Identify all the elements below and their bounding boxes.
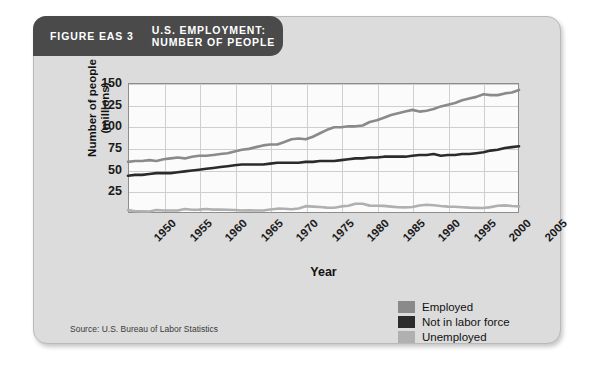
- y-axis-tick-labels: 150125100755025: [88, 83, 122, 213]
- y-axis-tick: 125: [101, 98, 122, 112]
- chart-legend: EmployedNot in labor forceUnemployed: [398, 301, 558, 346]
- figure-header-tab: FIGURE EAS 3 U.S. EMPLOYMENT: NUMBER OF …: [33, 16, 283, 56]
- x-axis-tick: 1990: [436, 217, 463, 244]
- legend-item: Unemployed: [398, 331, 558, 343]
- x-axis-tick: 1955: [187, 217, 214, 244]
- y-axis-tick: 150: [101, 76, 122, 90]
- x-axis-tick: 1965: [258, 217, 285, 244]
- x-axis-title: Year: [128, 265, 519, 279]
- legend-item: Employed: [398, 301, 558, 313]
- y-axis-tick: 50: [108, 163, 122, 177]
- x-axis-tick: 1970: [294, 217, 321, 244]
- legend-item: Not in labor force: [398, 316, 558, 328]
- series-line: [128, 146, 519, 175]
- series-line: [128, 90, 519, 162]
- x-axis-tick: 1980: [365, 217, 392, 244]
- x-axis-tick: 2005: [542, 217, 569, 244]
- x-axis-tick: 1950: [151, 217, 178, 244]
- legend-label: Employed: [422, 301, 473, 313]
- x-axis-tick: 1995: [471, 217, 498, 244]
- legend-swatch: [398, 331, 415, 343]
- chart-series-lines: [128, 83, 519, 213]
- x-axis-tick: 1985: [400, 217, 427, 244]
- series-line: [128, 204, 519, 212]
- x-axis-tick: 1975: [329, 217, 356, 244]
- x-axis-tick-labels: 1950195519601965197019751980198519901995…: [128, 217, 519, 257]
- legend-label: Not in labor force: [422, 316, 510, 328]
- source-note: Source: U.S. Bureau of Labor Statistics: [70, 324, 218, 334]
- y-axis-tick: 100: [101, 119, 122, 133]
- y-axis-tick: 25: [108, 184, 122, 198]
- legend-swatch: [398, 301, 415, 313]
- legend-swatch: [398, 316, 415, 328]
- figure-card: FIGURE EAS 3 U.S. EMPLOYMENT: NUMBER OF …: [33, 16, 561, 344]
- x-axis-tick: 2000: [507, 217, 534, 244]
- x-axis-tick: 1960: [223, 217, 250, 244]
- legend-label: Unemployed: [422, 331, 487, 343]
- figure-title-label: U.S. EMPLOYMENT: NUMBER OF PEOPLE: [152, 24, 276, 49]
- y-axis-tick: 75: [108, 141, 122, 155]
- chart-plot-area: [128, 83, 519, 213]
